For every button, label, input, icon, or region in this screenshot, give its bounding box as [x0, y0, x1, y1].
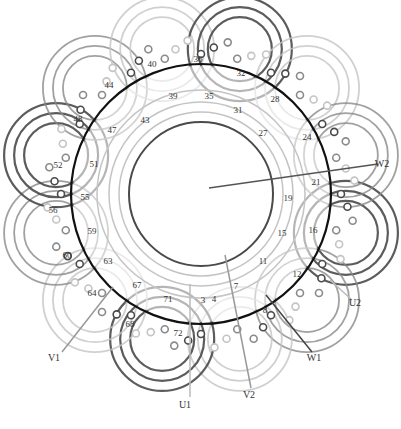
slot-terminal: [53, 216, 60, 223]
slot-terminal: [250, 335, 257, 342]
slot-terminal: [161, 55, 168, 62]
slot-terminal: [76, 261, 83, 268]
slot-terminal: [128, 312, 135, 319]
slot-terminal: [324, 102, 331, 109]
slot-number: 16: [309, 225, 319, 235]
slot-terminal: [58, 125, 65, 132]
slot-terminal: [349, 217, 356, 224]
slot-terminal: [171, 342, 178, 349]
slot-terminal: [333, 227, 340, 234]
slot-number: 32: [237, 68, 246, 78]
slot-number: 44: [105, 80, 115, 90]
slot-terminal: [135, 57, 142, 64]
slot-number: 40: [148, 59, 158, 69]
slot-number: 12: [293, 269, 302, 279]
slot-terminal: [223, 335, 230, 342]
slot-number: 39: [169, 91, 179, 101]
slot-terminal: [198, 331, 205, 338]
slot-terminal: [58, 191, 65, 198]
slot-number: 72: [174, 328, 183, 338]
slot-terminal: [351, 177, 358, 184]
slot-terminal: [331, 128, 338, 135]
slot-terminal: [113, 311, 120, 318]
slot-terminal: [292, 303, 299, 310]
slot-terminal: [99, 289, 106, 296]
slot-number: 21: [312, 177, 321, 187]
slot-terminal: [59, 140, 66, 147]
slot-number: 36: [194, 54, 204, 64]
slot-terminal: [344, 203, 351, 210]
slot-terminal: [248, 52, 255, 59]
slot-terminal: [263, 51, 270, 58]
slot-terminal: [318, 275, 325, 282]
slot-terminal: [161, 326, 168, 333]
slot-terminal: [62, 227, 69, 234]
slot-number: 35: [205, 91, 215, 101]
lead-label-w2: W2: [375, 158, 389, 169]
slot-terminal: [211, 344, 218, 351]
slot-terminal: [132, 330, 139, 337]
slot-terminal: [336, 241, 343, 248]
slot-terminal: [342, 138, 349, 145]
slot-terminal: [109, 64, 116, 71]
slot-number: 64: [88, 288, 98, 298]
slot-number: 7: [234, 281, 239, 291]
slot-number: 60: [63, 250, 73, 260]
slot-number: 55: [81, 192, 91, 202]
slot-terminal: [51, 178, 58, 185]
slot-number: 4: [212, 294, 217, 304]
slot-number: 51: [90, 159, 99, 169]
slot-terminal: [338, 191, 345, 198]
slot-number: 19: [284, 193, 294, 203]
slot-number: 11: [259, 256, 268, 266]
slot-terminal: [46, 164, 53, 171]
lead-label-u1: U1: [179, 399, 191, 410]
slot-number: 28: [271, 94, 281, 104]
slot-terminal: [71, 279, 78, 286]
slot-terminal: [210, 44, 217, 51]
slot-terminal: [315, 289, 322, 296]
slot-terminal: [128, 69, 135, 76]
slot-number: 24: [303, 132, 313, 142]
slot-number: 47: [108, 125, 118, 135]
slot-terminal: [319, 261, 326, 268]
slot-terminal: [99, 308, 106, 315]
slot-terminal: [333, 154, 340, 161]
winding-diagram: W2U2W1V2V1U13640324439352848433147272452…: [0, 0, 401, 429]
slot-terminal: [282, 70, 289, 77]
slot-terminal: [53, 243, 60, 250]
slot-terminal: [77, 106, 84, 113]
slot-terminal: [172, 46, 179, 53]
slot-number: 67: [133, 280, 143, 290]
slot-number: 59: [88, 226, 98, 236]
slot-terminal: [296, 73, 303, 80]
lead-label-v1: V1: [48, 352, 60, 363]
slot-number: 8: [263, 305, 268, 315]
slot-terminal: [234, 55, 241, 62]
lead-label-u2: U2: [349, 297, 361, 308]
slot-terminal: [296, 289, 303, 296]
slot-terminal: [99, 92, 106, 99]
slot-terminal: [310, 96, 317, 103]
slot-number: 3: [201, 295, 206, 305]
slot-terminal: [147, 329, 154, 336]
stator-winding-svg: W2U2W1V2V1U13640324439352848433147272452…: [0, 0, 401, 429]
slot-number: 71: [164, 294, 173, 304]
slot-number: 63: [104, 256, 114, 266]
slot-number: 15: [278, 228, 288, 238]
slot-number: 48: [74, 114, 84, 124]
slot-number: 31: [234, 105, 243, 115]
slot-terminal: [80, 92, 87, 99]
slot-terminal: [337, 256, 344, 263]
slot-terminal: [224, 39, 231, 46]
slot-terminal: [260, 324, 267, 331]
slot-terminal: [296, 92, 303, 99]
slot-number: 43: [141, 115, 151, 125]
lead-label-w1: W1: [307, 352, 321, 363]
slot-number: 52: [54, 160, 63, 170]
lead-label-v2: V2: [243, 389, 255, 400]
slot-terminal: [145, 46, 152, 53]
slot-terminal: [268, 312, 275, 319]
slot-terminal: [319, 121, 326, 128]
slot-number: 68: [126, 319, 136, 329]
